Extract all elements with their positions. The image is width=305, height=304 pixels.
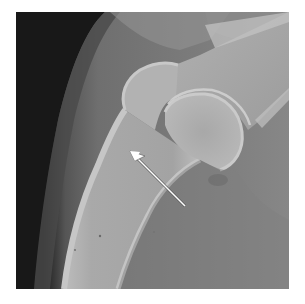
xray-image [16,12,289,289]
xray-figure [16,12,289,289]
